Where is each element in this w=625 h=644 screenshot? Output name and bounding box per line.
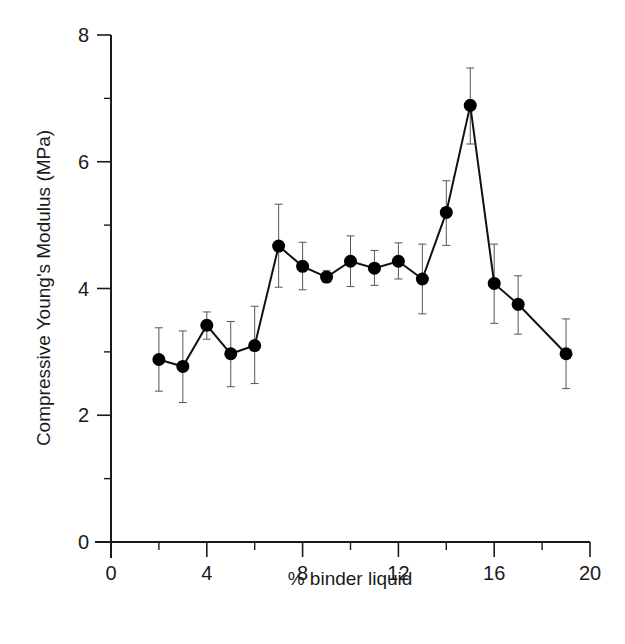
series-polyline xyxy=(159,105,566,366)
data-point xyxy=(320,271,333,284)
x-tick-label: 20 xyxy=(579,562,601,584)
data-point xyxy=(464,99,477,112)
x-tick-label: 0 xyxy=(105,562,116,584)
data-point xyxy=(416,272,429,285)
data-point xyxy=(248,339,261,352)
x-tick-label: 16 xyxy=(483,562,505,584)
data-point xyxy=(392,255,405,268)
y-axis-title: Compressive Young's Modulus (MPa) xyxy=(33,130,54,446)
y-tick-label: 4 xyxy=(78,278,89,300)
data-point xyxy=(272,240,285,253)
axes xyxy=(95,35,590,558)
y-tick-label: 6 xyxy=(78,151,89,173)
x-tick-label: 4 xyxy=(201,562,212,584)
data-point xyxy=(296,260,309,273)
data-point xyxy=(488,277,501,290)
data-point xyxy=(368,262,381,275)
data-markers xyxy=(152,99,572,373)
data-point xyxy=(176,360,189,373)
x-axis-title: % binder liquid xyxy=(288,568,413,589)
y-tick-label: 2 xyxy=(78,404,89,426)
data-point xyxy=(440,206,453,219)
data-point xyxy=(152,353,165,366)
y-tick-label: 8 xyxy=(78,24,89,46)
error-bars xyxy=(155,68,570,403)
data-point xyxy=(224,347,237,360)
data-point xyxy=(344,255,357,268)
data-point xyxy=(512,298,525,311)
chart: 02468048121620 % binder liquid Compressi… xyxy=(0,0,625,644)
data-point xyxy=(560,347,573,360)
series-line xyxy=(159,105,566,366)
y-tick-label: 0 xyxy=(78,531,89,553)
data-point xyxy=(200,319,213,332)
